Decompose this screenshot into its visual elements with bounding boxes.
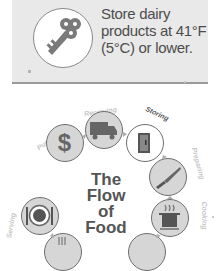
step-label-storing: Storing	[145, 105, 170, 122]
pot-icon	[152, 200, 187, 235]
speck	[212, 216, 214, 218]
key-icon	[42, 15, 86, 61]
cooling-icon	[45, 234, 80, 246]
truck-icon	[86, 112, 121, 147]
step-purchasing: $	[46, 124, 84, 162]
corner-mark	[28, 70, 31, 73]
step-receiving	[85, 111, 123, 149]
step-label-preparing: Preparing	[191, 147, 206, 180]
title-line: Food	[79, 220, 133, 236]
key-icon-circle	[33, 8, 93, 68]
knife-icon	[150, 159, 185, 194]
refrigerator-icon	[127, 125, 162, 160]
tip-box: Store dairy products at 41°F (5°C) or lo…	[12, 0, 208, 84]
flow-title: The Flow of Food	[79, 172, 133, 236]
speck	[184, 81, 186, 83]
plate-icon	[22, 198, 57, 233]
dollar-icon: $	[47, 125, 82, 160]
step-storing	[126, 124, 164, 162]
step-holding	[128, 233, 166, 271]
tip-text: Store dairy products at 41°F (5°C) or lo…	[101, 5, 216, 56]
step-serving	[21, 197, 59, 235]
svg-text:$: $	[58, 129, 72, 156]
step-cooking	[151, 199, 189, 237]
step-cooling	[44, 233, 82, 271]
step-preparing	[149, 158, 187, 196]
step-label-cooking: Cooking	[201, 202, 208, 230]
step-label-serving: Serving	[5, 212, 16, 239]
